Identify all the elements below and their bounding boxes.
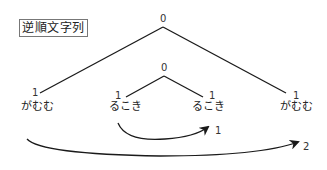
arrow-1-label: 1: [215, 125, 221, 137]
inner-left-word: るこき: [109, 100, 142, 113]
edge-root-right: [163, 27, 286, 93]
edge-inner-right: [164, 76, 203, 97]
edge-inner-left: [126, 76, 164, 97]
left-leaf-count: 1: [32, 87, 38, 99]
inner-node-label: 0: [161, 62, 167, 74]
inner-right-word: るこき: [192, 100, 225, 113]
left-leaf-word: がむむ: [21, 100, 54, 113]
root-node-label: 0: [160, 13, 166, 25]
arrow-2-label: 2: [303, 141, 309, 153]
title-label: 逆順文字列: [19, 19, 88, 37]
arrow-1: [118, 123, 208, 139]
arrow-2: [27, 139, 298, 156]
right-leaf-word: がむむ: [280, 100, 313, 113]
